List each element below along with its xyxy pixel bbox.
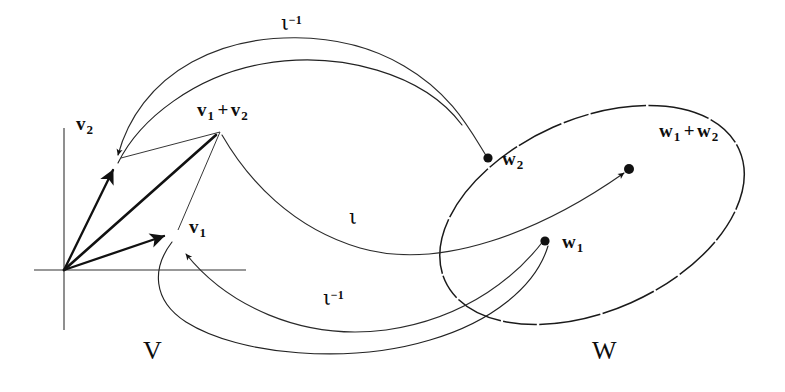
vector-v1-plus-v2-arrow [64,135,216,270]
label-w-sum-first: w [659,120,673,141]
map-iota-inverse-top-arc [118,38,487,157]
label-w-sum-operator: + [682,120,697,141]
label-v2-base: v [76,113,86,134]
iota-symbol-icon: ι [349,205,357,229]
label-map-iota-forward: ι [349,207,357,227]
label-w1: w1 [562,232,585,254]
isomorphism-diagram-figure: v2 v1 v1+v2 w2 w1 w1+w2 ι−1 ι ι−1 V W [0,0,785,392]
vector-parallelogram [121,132,220,230]
space-w-boundary [406,62,778,368]
label-v-sum-first-sub: 1 [207,108,216,123]
label-map-inverse-bottom-exponent: −1 [331,288,344,302]
parallelogram-edge-right [178,132,220,230]
label-w2-base: w [502,148,516,169]
label-w2-sub: 2 [516,157,525,172]
diagram-canvas [0,0,785,392]
label-w1-sub: 1 [576,240,585,255]
label-v1-base: v [189,216,199,237]
label-w2: w2 [502,149,525,171]
coordinate-axes [34,128,246,330]
point-w1-plus-w2 [624,164,634,174]
iota-symbol-icon: ι [281,11,289,35]
vector-arrows [64,135,216,270]
iota-symbol-icon: ι [323,286,331,310]
label-w1-base: w [562,231,576,252]
label-map-iota-inverse-bottom: ι−1 [323,288,344,308]
label-v-sum-second: v [231,99,241,120]
label-v1-sub: 1 [199,225,208,240]
label-v-sum-second-sub: 2 [241,108,250,123]
label-v1-plus-v2: v1+v2 [197,100,249,122]
label-v-sum-first: v [197,99,207,120]
label-w1-plus-w2: w1+w2 [659,121,720,143]
space-v-boundary [118,60,548,354]
label-w-sum-first-sub: 1 [673,129,682,144]
point-w2 [483,153,492,162]
label-v-sum-operator: + [216,99,231,120]
label-v2-sub: 2 [86,122,95,137]
label-w-sum-second-sub: 2 [711,129,720,144]
label-v2: v2 [76,114,95,136]
label-w-sum-second: w [697,120,711,141]
label-v1: v1 [189,217,208,239]
label-map-inverse-top-exponent: −1 [289,13,302,27]
label-map-iota-inverse-top: ι−1 [281,13,302,33]
label-space-v: V [143,338,162,364]
point-w1 [540,236,549,245]
label-space-w: W [592,338,617,364]
